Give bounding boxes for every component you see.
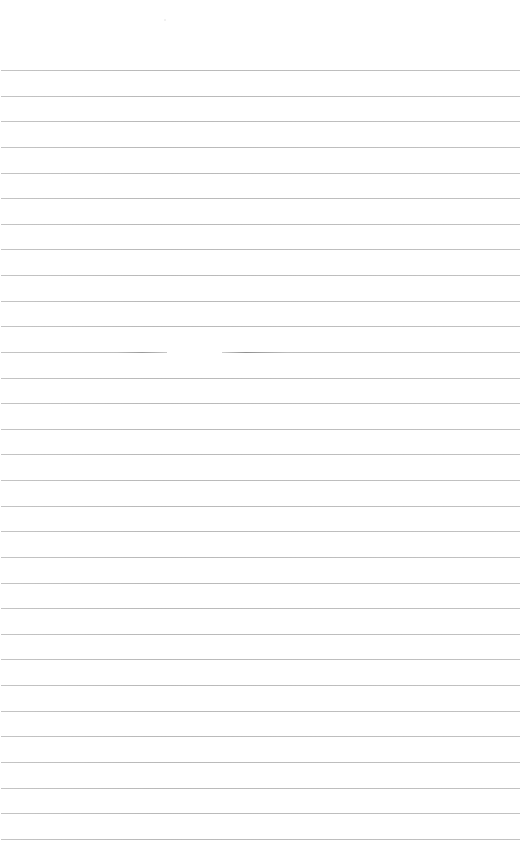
ruled-line bbox=[1, 70, 520, 71]
ruled-line bbox=[1, 685, 520, 686]
ruled-line bbox=[1, 813, 520, 814]
lined-paper-page bbox=[0, 0, 525, 856]
paper-speck bbox=[164, 19, 166, 21]
ruled-line bbox=[1, 249, 520, 250]
ruled-line bbox=[1, 659, 520, 660]
ruled-line bbox=[1, 762, 520, 763]
ruled-line bbox=[1, 378, 520, 379]
ruled-line bbox=[1, 224, 520, 225]
ruled-line bbox=[1, 480, 520, 481]
ruled-line bbox=[1, 429, 520, 430]
ruled-line bbox=[1, 839, 520, 840]
ruled-line bbox=[1, 301, 520, 302]
ruled-line bbox=[1, 198, 520, 199]
ruled-line bbox=[1, 711, 520, 712]
ruled-line bbox=[1, 583, 520, 584]
ruled-line bbox=[1, 531, 520, 532]
ruled-line-segment-left bbox=[1, 352, 167, 353]
ruled-line bbox=[1, 634, 520, 635]
ruled-line bbox=[1, 121, 520, 122]
ruled-line bbox=[1, 275, 520, 276]
ruled-line bbox=[1, 608, 520, 609]
ruled-line bbox=[1, 557, 520, 558]
ruled-line bbox=[1, 403, 520, 404]
ruled-line bbox=[1, 147, 520, 148]
ruled-line bbox=[1, 173, 520, 174]
ruled-line-segment-right bbox=[222, 352, 520, 353]
ruled-line bbox=[1, 96, 520, 97]
ruled-line bbox=[1, 352, 520, 353]
ruled-line bbox=[1, 736, 520, 737]
ruled-line bbox=[1, 454, 520, 455]
ruled-line bbox=[1, 788, 520, 789]
ruled-line bbox=[1, 506, 520, 507]
ruled-line bbox=[1, 326, 520, 327]
